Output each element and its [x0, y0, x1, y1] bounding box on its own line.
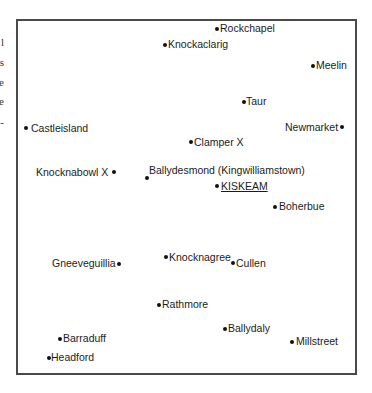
place-label: Barraduff — [63, 332, 106, 344]
place-label: Millstreet — [296, 335, 338, 347]
map-frame — [16, 19, 357, 375]
place-label: Ballydesmond (Kingwilliamstown) — [149, 164, 305, 176]
place-marker-dot-icon — [24, 126, 28, 130]
place-marker-dot-icon — [215, 27, 219, 31]
place-marker-dot-icon — [273, 205, 277, 209]
place-label: Headford — [51, 351, 94, 363]
place-marker-dot-icon — [58, 337, 62, 341]
place-marker-dot-icon — [164, 255, 168, 259]
place-label: KISKEAM — [221, 180, 268, 192]
place-marker-dot-icon — [163, 43, 167, 47]
place-label: Meelin — [316, 59, 347, 71]
place-label: Boherbue — [279, 200, 325, 212]
place-label: Knocknabowl X — [36, 166, 108, 178]
place-marker-dot-icon — [223, 327, 227, 331]
place-label: Rathmore — [162, 298, 208, 310]
place-marker-dot-icon — [112, 170, 116, 174]
place-label: Ballydaly — [228, 322, 270, 334]
place-marker-dot-icon — [231, 261, 235, 265]
place-marker-dot-icon — [117, 262, 121, 266]
place-marker-dot-icon — [340, 125, 344, 129]
place-marker-dot-icon — [290, 340, 294, 344]
place-label: Taur — [246, 95, 266, 107]
cropped-text-fragment: e — [0, 77, 4, 88]
place-label: Knocknagree — [169, 251, 231, 263]
place-label: Cullen — [236, 257, 266, 269]
place-marker-dot-icon — [145, 176, 149, 180]
cropped-text-fragment: s — [0, 57, 4, 68]
place-marker-dot-icon — [157, 303, 161, 307]
cropped-text-fragment: e — [0, 96, 4, 107]
place-marker-dot-icon — [189, 140, 193, 144]
cropped-text-fragment: l — [0, 37, 4, 48]
place-marker-dot-icon — [311, 64, 315, 68]
place-marker-dot-icon — [215, 184, 219, 188]
place-label: Knockaclarig — [168, 38, 228, 50]
cropped-text-fragment: - — [0, 117, 4, 128]
place-label: Castleisland — [31, 122, 88, 134]
place-label: Gneeveguillia — [52, 257, 116, 269]
place-label: Newmarket — [285, 121, 338, 133]
place-label: Clamper X — [194, 136, 244, 148]
place-label: Rockchapel — [220, 22, 275, 34]
